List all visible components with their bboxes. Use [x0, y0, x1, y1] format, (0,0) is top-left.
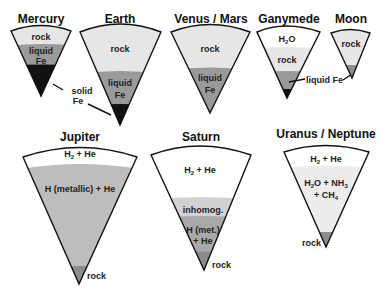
saturn-inhomog-label: inhomog. — [183, 205, 224, 215]
saturn-met-label-line2: + He — [193, 236, 212, 246]
mercury-title: Mercury — [18, 12, 65, 26]
ganymede-rock-label: rock — [277, 55, 297, 65]
ganymede-wedge: Ganymede H2O rock — [250, 10, 330, 105]
jupiter-rock-label: rock — [87, 271, 107, 281]
uranus-neptune-gas-label: H2 + He — [310, 154, 342, 165]
saturn-rock-label: rock — [212, 260, 232, 270]
planetary-interiors-diagram: Mercury rock liquid Fe solid Fe Earth ro… — [0, 0, 383, 293]
jupiter-gas-label: H2 + He — [64, 149, 96, 160]
earth-wedge: Earth rock liquid Fe — [70, 10, 170, 135]
solid-fe-label-line1: solid — [71, 86, 92, 96]
solid-fe-label-line2: Fe — [73, 96, 84, 106]
ganymede-title: Ganymede — [258, 12, 320, 26]
saturn-met-label-line1: H (met.) — [186, 225, 220, 235]
uranus-neptune-rock-label: rock — [302, 238, 322, 248]
venus-mars-liquid-label: liquid — [198, 73, 222, 83]
uranus-neptune-title: Uranus / Neptune — [276, 127, 376, 141]
uranus-neptune-wedge: Uranus / Neptune H2 + He H2O + NH3 + CH4… — [276, 127, 376, 255]
venus-mars-wedge: Venus / Mars rock liquid Fe — [160, 10, 260, 120]
solid-fe-leader-earth — [88, 104, 111, 115]
moon-rock-label: rock — [341, 39, 361, 49]
solid-fe-leader-mercury — [53, 84, 63, 90]
jupiter-wedge: Jupiter H2 + He H (metallic) + He rock — [15, 130, 145, 290]
saturn-title: Saturn — [182, 130, 220, 144]
moon-title: Moon — [335, 12, 367, 26]
mercury-fe-label: Fe — [36, 56, 47, 66]
jupiter-title: Jupiter — [60, 130, 100, 144]
solid-fe-callout: solid Fe — [53, 84, 111, 115]
liquid-fe-label: liquid Fe — [306, 75, 343, 85]
jupiter-metallic-label: H (metallic) + He — [45, 184, 115, 194]
mercury-liquid-label: liquid — [29, 46, 53, 56]
venus-mars-rock-label: rock — [200, 44, 220, 54]
venus-mars-fe-label: Fe — [205, 85, 216, 95]
saturn-wedge: Saturn H2 + He inhomog. H (met.) + He ro… — [145, 130, 260, 275]
earth-fe-label: Fe — [115, 90, 126, 100]
earth-rock-label: rock — [110, 44, 130, 54]
earth-liquid-label: liquid — [108, 78, 132, 88]
saturn-gas-label: H2 + He — [184, 165, 216, 176]
mercury-rock-label: rock — [31, 32, 51, 42]
